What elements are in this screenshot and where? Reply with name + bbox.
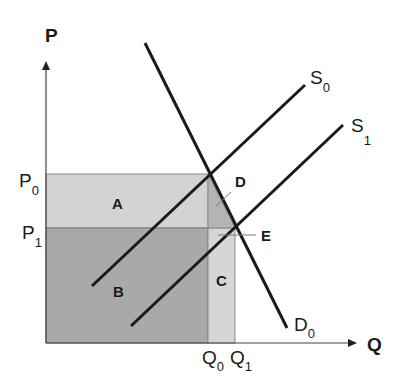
demand-d0-label: D0	[294, 314, 315, 341]
region-d-label: D	[235, 173, 246, 190]
region-a-label: A	[112, 195, 123, 212]
price-p1-label: P1	[22, 222, 42, 250]
region-b	[46, 228, 208, 343]
quantity-q1-label: Q1	[230, 347, 252, 374]
region-c-label: C	[216, 272, 227, 289]
supply-s0-label: S0	[310, 67, 330, 95]
price-p0-label: P0	[19, 170, 39, 198]
supply-demand-diagram: P Q P0 P1 Q0 Q1 S0 S1 D0 A B C D E	[0, 0, 409, 390]
point-e-label: E	[261, 227, 271, 244]
x-axis-arrow-icon	[348, 339, 357, 347]
x-axis-label: Q	[367, 334, 382, 355]
y-axis-arrow-icon	[42, 61, 50, 70]
region-b-label: B	[113, 283, 124, 300]
supply-s1-label: S1	[351, 115, 371, 148]
y-axis-label: P	[45, 25, 58, 46]
quantity-q0-label: Q0	[202, 347, 224, 374]
